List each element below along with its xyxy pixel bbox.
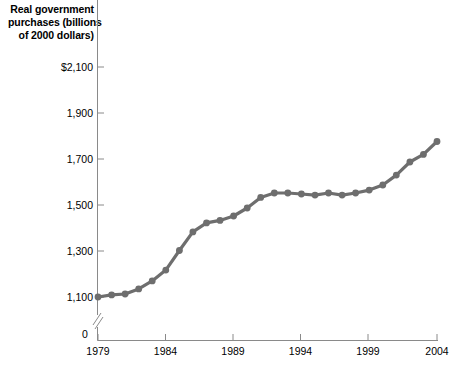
x-tick-marks xyxy=(98,334,437,341)
data-point xyxy=(298,191,305,198)
data-point xyxy=(217,217,224,224)
data-point xyxy=(122,291,129,298)
axis-break-mark-2 xyxy=(95,317,103,329)
y-tick-label-1900: 1,900 xyxy=(33,107,93,119)
y-axis-origin-label: 0 xyxy=(82,328,88,340)
data-point xyxy=(420,151,427,158)
x-tick-label-1994: 1994 xyxy=(279,345,323,357)
data-point xyxy=(190,229,197,236)
x-tick-label-2004: 2004 xyxy=(415,345,459,357)
y-tick-marks xyxy=(98,67,105,297)
x-tick-label-1989: 1989 xyxy=(211,345,255,357)
data-point xyxy=(352,190,359,197)
data-point xyxy=(203,220,210,227)
data-point xyxy=(284,190,291,197)
data-point xyxy=(379,182,386,189)
series-markers xyxy=(95,138,441,300)
data-point xyxy=(434,138,441,145)
y-tick-label-1300: 1,300 xyxy=(33,245,93,257)
data-point xyxy=(176,247,183,254)
data-point xyxy=(244,205,251,212)
x-tick-label-1999: 1999 xyxy=(346,345,390,357)
data-point xyxy=(339,192,346,199)
data-point xyxy=(393,172,400,179)
y-tick-label-1700: 1,700 xyxy=(33,153,93,165)
chart-figure: Real government purchases (billions of 2… xyxy=(0,0,475,381)
y-tick-label-1100: 1,100 xyxy=(33,291,93,303)
data-point xyxy=(312,192,319,199)
series-line xyxy=(98,142,437,298)
y-tick-label-2100: $2,100 xyxy=(33,61,93,73)
data-point xyxy=(257,194,264,201)
y-tick-label-1500: 1,500 xyxy=(33,199,93,211)
data-point xyxy=(325,190,332,197)
data-point xyxy=(230,213,237,220)
data-point xyxy=(135,286,142,293)
plot-area xyxy=(0,0,475,381)
x-tick-label-1984: 1984 xyxy=(144,345,188,357)
data-point xyxy=(162,267,169,274)
x-tick-label-1979: 1979 xyxy=(76,345,120,357)
data-point xyxy=(108,292,115,299)
data-point xyxy=(366,187,373,194)
data-point xyxy=(95,294,102,301)
data-point xyxy=(271,190,278,197)
data-point xyxy=(407,159,414,166)
data-point xyxy=(149,278,156,285)
